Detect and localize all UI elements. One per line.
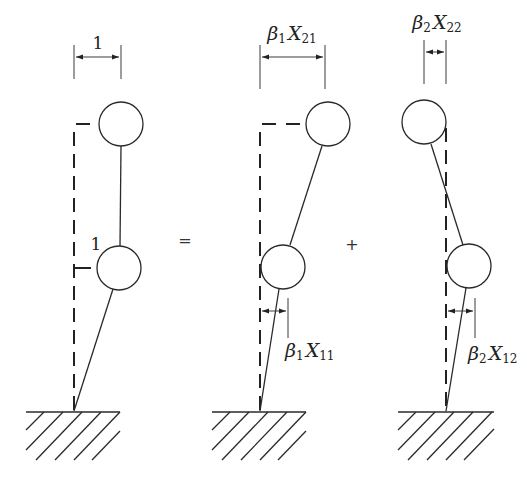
fixed-support-hatch: [26, 412, 120, 460]
fixed-support-hatch: [398, 412, 494, 460]
upper-mass: [306, 102, 350, 146]
lower-mass: [447, 244, 491, 288]
upper-mass: [402, 100, 446, 144]
top-dimension-label-mode2: β2X22: [411, 11, 461, 35]
top-dimension-unit: 1: [74, 33, 121, 79]
top-dimension-mode2: β2X22: [411, 11, 461, 84]
top-dimension-label-mode1: β1X21: [266, 22, 316, 46]
equals-operator: =: [178, 231, 191, 250]
figure-mode-1: β1X21 β1X11: [212, 22, 350, 460]
undeformed-reference-dashed: [74, 124, 91, 411]
figure-total-deflection: 1 1: [26, 33, 143, 460]
figure-mode-2: β2X22 β2X12: [398, 11, 517, 460]
lower-mass: [97, 246, 141, 290]
top-dimension-label: 1: [93, 33, 104, 53]
top-dimension-mode1: β1X21: [260, 22, 325, 89]
lower-rod: [74, 289, 113, 411]
bottom-dimension-label-mode2: β2X12: [467, 342, 517, 366]
lower-mass: [261, 245, 305, 289]
lower-mass-unit-label: 1: [91, 234, 102, 254]
lower-rod: [446, 288, 466, 411]
plus-operator: +: [345, 235, 358, 254]
upper-mass: [99, 102, 143, 146]
bottom-dimension-label-mode1: β1X11: [284, 339, 334, 363]
lower-rod: [260, 289, 279, 411]
upper-rod: [120, 146, 121, 246]
mode-superposition-diagram: 1 1 =: [0, 0, 527, 484]
upper-rod: [290, 146, 322, 245]
fixed-support-hatch: [212, 412, 306, 460]
